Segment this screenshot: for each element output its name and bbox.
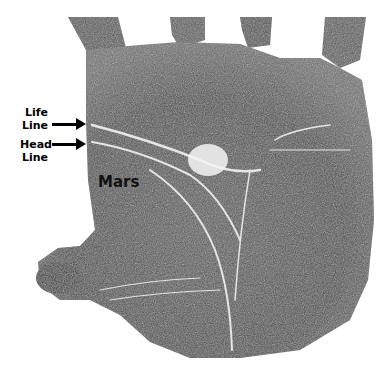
head-line-label: Head Line (20, 138, 48, 164)
head-line-label-word2: Line (20, 151, 48, 164)
mars-highlight (188, 144, 228, 176)
head-line-label-word1: Head (20, 138, 48, 151)
head-line-arrow (52, 143, 78, 146)
life-line-label: Life Line (22, 106, 48, 132)
life-line-label-word1: Life (22, 106, 48, 119)
life-line-arrow (52, 123, 78, 126)
mars-label: Mars (98, 176, 139, 189)
palm-print-image (0, 0, 390, 390)
life-line-label-word2: Line (22, 119, 48, 132)
